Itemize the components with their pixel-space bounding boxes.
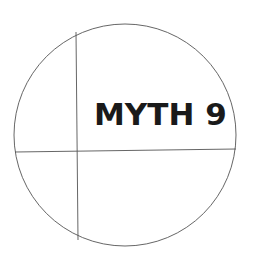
outer-circle bbox=[14, 24, 236, 246]
horizontal-divider bbox=[15, 149, 236, 152]
vertical-divider bbox=[76, 32, 78, 240]
myth-title: MYTH 9 bbox=[94, 95, 209, 133]
